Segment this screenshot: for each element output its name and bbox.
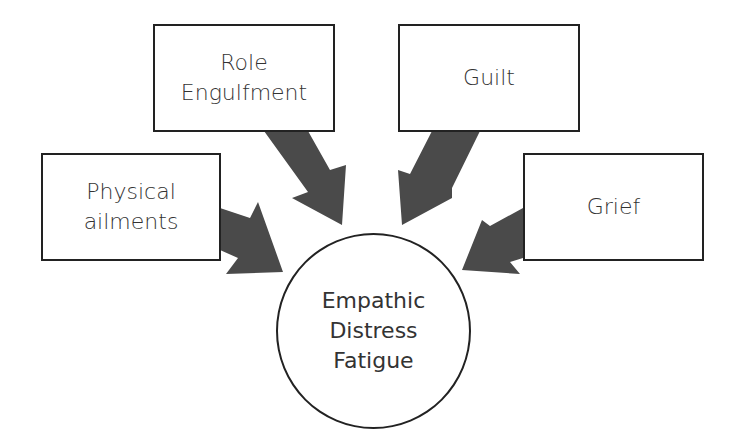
factor-label-line: Grief [587,192,641,222]
factor-label-line: Guilt [463,63,515,93]
arrow-role-to-center [264,131,346,225]
factor-label-line: Physical [86,177,176,207]
center-label-line: Distress [329,316,417,346]
arrow-physical-to-center [220,202,283,274]
center-label-line: Fatigue [333,346,413,376]
factor-grief: Grief [523,153,704,261]
factor-label-line: Engulfment [181,78,307,108]
factor-guilt: Guilt [398,24,580,132]
factor-label-line: Role [220,48,267,78]
arrow-guilt-to-center [398,131,480,225]
center-empathic-distress-fatigue: Empathic Distress Fatigue [276,233,471,429]
arrow-grief-to-center [462,208,523,274]
center-label-line: Empathic [322,286,426,316]
factor-role-engulfment: Role Engulfment [153,24,335,132]
factor-label-line: ailments [84,207,179,237]
factor-physical-ailments: Physical ailments [41,153,221,261]
